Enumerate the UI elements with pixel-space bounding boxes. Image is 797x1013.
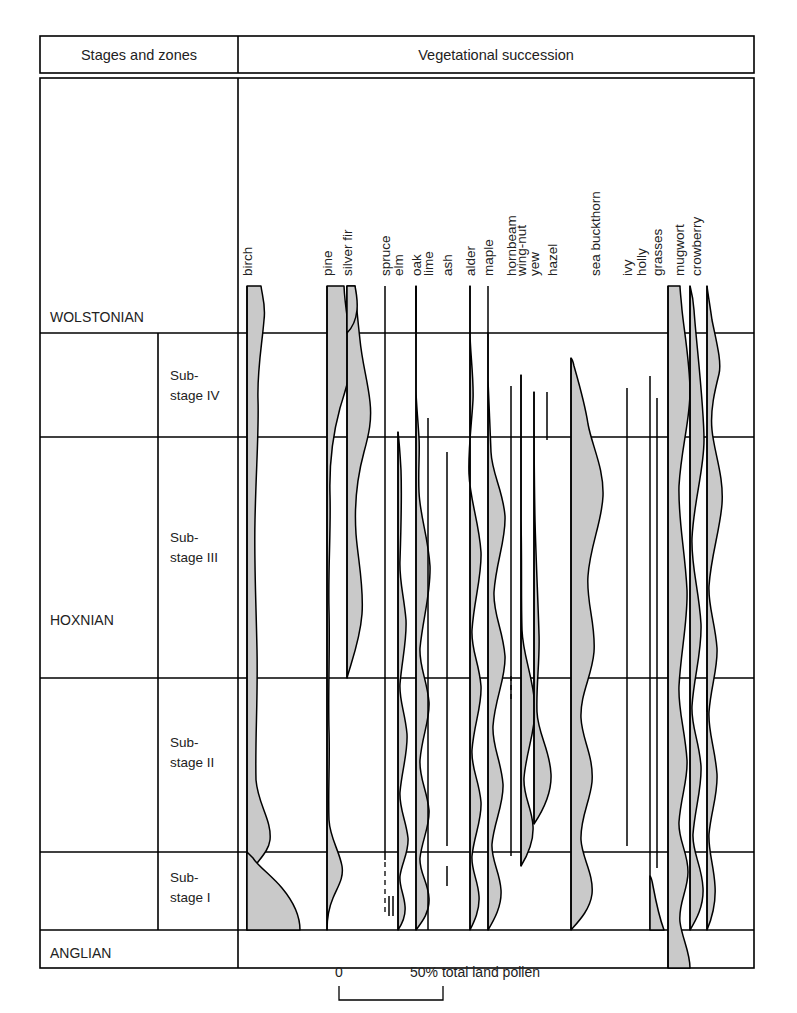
pollen-curves [247,286,722,968]
taxon-label-ivy: ivy [620,259,635,276]
substage-label-i-line1: Sub- [170,870,199,885]
taxon-label-elm: elm [391,254,406,276]
taxon-label-lime: lime [421,251,436,276]
scale-bar: 0 50% total land pollen [335,964,540,1000]
curve-crowberry [707,286,722,930]
stage-label-anglian: ANGLIAN [50,945,111,961]
substage-label-ii-line2: stage II [170,755,214,770]
scale-bracket [339,986,443,1000]
taxon-label-maple: maple [481,239,496,276]
taxon-label-ash: ash [440,254,455,276]
taxon-label-crowberry: crowberry [689,216,704,276]
scale-max-label: 50% total land pollen [410,964,540,980]
taxon-label-sea-buckthorn: sea buckthorn [588,191,603,276]
taxon-labels: birch pine silver fir spruce elm oak lim… [240,191,704,277]
substage-label-iii-line1: Sub- [170,530,199,545]
substage-label-iii-line2: stage III [170,550,218,565]
curve-hazel [571,358,603,930]
diagram-canvas: Stages and zones Vegetational succession… [0,0,797,1013]
curve-mugwort [690,286,704,930]
stages-and-zones-title: Stages and zones [81,47,197,63]
substage-label-i-line2: stage I [170,890,211,905]
scale-zero-label: 0 [335,964,343,980]
pollen-diagram-figure: Stages and zones Vegetational succession… [0,0,797,1013]
taxon-label-silver-fir: silver fir [340,229,355,276]
curve-yew [534,392,551,824]
substage-label-iv-line2: stage IV [170,388,220,403]
taxon-label-birch: birch [240,247,255,276]
taxon-label-hazel: hazel [545,244,560,276]
curve-grasses [668,286,690,968]
substage-label-iv-line1: Sub- [170,368,199,383]
taxon-label-pine: pine [320,250,335,276]
substage-label-ii-line1: Sub- [170,735,199,750]
curve-elm [398,432,408,930]
taxon-label-yew: yew [527,252,542,276]
vegetational-succession-title: Vegetational succession [418,47,574,63]
curve-wing-nut [521,375,535,866]
curve-maple [488,333,505,930]
taxon-label-holly: holly [634,248,649,276]
taxon-label-mugwort: mugwort [672,224,687,276]
taxon-label-grasses: grasses [650,228,665,276]
diagram-body-frame [40,78,754,968]
curve-ivy-spike [650,876,664,930]
taxon-label-alder: alder [463,245,478,276]
stage-label-hoxnian: HOXNIAN [50,612,114,628]
curve-silver-fir [347,286,371,678]
curve-birch [247,286,270,930]
stage-label-wolstonian: WOLSTONIAN [50,309,144,325]
curve-birch-lower [247,852,300,930]
